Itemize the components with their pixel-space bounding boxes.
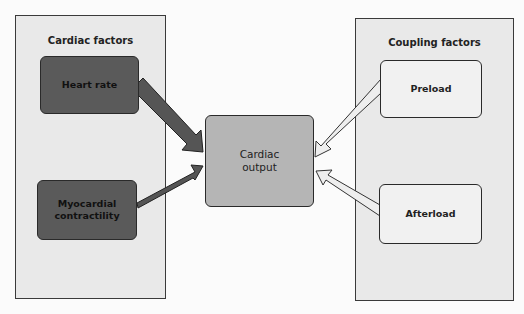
arrow-preload <box>315 79 381 157</box>
cardiac-output-node: Cardiac output <box>205 115 314 207</box>
afterload-node: Afterload <box>379 184 482 244</box>
preload-node: Preload <box>380 60 482 118</box>
myocardial-contractility-label: Myocardial contractility <box>52 198 122 222</box>
arrow-contractility <box>137 165 203 208</box>
preload-label: Preload <box>410 83 451 95</box>
myocardial-contractility-node: Myocardial contractility <box>37 180 137 240</box>
afterload-label: Afterload <box>405 208 455 220</box>
arrow-afterload <box>316 170 380 216</box>
heart-rate-label: Heart rate <box>62 79 117 91</box>
arrow-heart-rate <box>136 78 203 152</box>
heart-rate-node: Heart rate <box>40 56 139 114</box>
cardiac-output-label: Cardiac output <box>230 148 290 174</box>
